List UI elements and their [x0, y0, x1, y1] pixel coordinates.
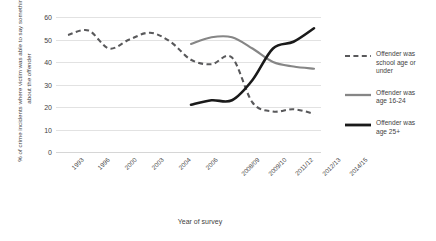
- y-tick-label-20: 20: [44, 104, 52, 111]
- legend-bold-line-icon: [345, 120, 371, 130]
- legend-dashed-line-icon: [345, 51, 371, 61]
- x-tick-label-2008-09: 2008/09: [240, 156, 261, 177]
- legend-label-line-3: under: [376, 67, 393, 74]
- x-tick-labels: 1993 1996 2000 2003 2004 2006 2008/09 20…: [56, 152, 321, 212]
- legend-item-school-age[interactable]: Offender wasschool age orunder: [345, 50, 435, 76]
- legend-item-age-25-plus[interactable]: Offender wasage 25+: [345, 119, 435, 136]
- legend-label-line-1: Offender was: [376, 50, 415, 57]
- y-tick-label-0: 0: [48, 149, 52, 156]
- legend-label-age-25-plus: Offender wasage 25+: [376, 119, 415, 136]
- legend-solid-line-icon: [345, 90, 371, 100]
- series-layer: [56, 17, 321, 152]
- chart-legend: Offender wasschool age orunder Offender …: [345, 50, 435, 149]
- legend-label-line-1: Offender was: [376, 119, 415, 126]
- legend-label-age-16-24: Offender wasage 16-24: [376, 89, 415, 106]
- legend-item-age-16-24[interactable]: Offender wasage 16-24: [345, 89, 435, 106]
- legend-label-line-2: age 16-24: [376, 97, 406, 104]
- series-line-school-age: [68, 30, 314, 114]
- x-tick-label-1993: 1993: [70, 156, 85, 171]
- x-tick-label-2012-13: 2012/13: [321, 156, 342, 177]
- legend-label-line-2: school age or: [376, 59, 416, 66]
- plot-area: 60 50 40 30 20 10 0: [56, 17, 321, 152]
- x-tick-label-1996: 1996: [96, 156, 111, 171]
- x-tick-label-2000: 2000: [123, 156, 138, 171]
- y-tick-label-50: 50: [44, 36, 52, 43]
- x-tick-label-2003: 2003: [150, 156, 165, 171]
- legend-label-school-age: Offender wasschool age orunder: [376, 50, 416, 76]
- x-tick-label-2014-15: 2014/15: [348, 156, 369, 177]
- legend-label-line-1: Offender was: [376, 89, 415, 96]
- y-axis-title: % of crime incidents where victim was ab…: [16, 0, 33, 166]
- x-axis-title: Year of survey: [120, 218, 280, 225]
- x-tick-label-2009-10: 2009/10: [267, 156, 288, 177]
- line-chart: % of crime incidents where victim was ab…: [0, 0, 436, 241]
- x-tick-label-2011-12: 2011/12: [294, 156, 315, 177]
- x-tick-label-2004: 2004: [177, 156, 192, 171]
- y-tick-label-60: 60: [44, 14, 52, 21]
- y-tick-label-30: 30: [44, 81, 52, 88]
- y-tick-label-40: 40: [44, 59, 52, 66]
- y-tick-label-10: 10: [44, 126, 52, 133]
- x-tick-label-2006: 2006: [204, 156, 219, 171]
- legend-label-line-2: age 25+: [376, 128, 400, 135]
